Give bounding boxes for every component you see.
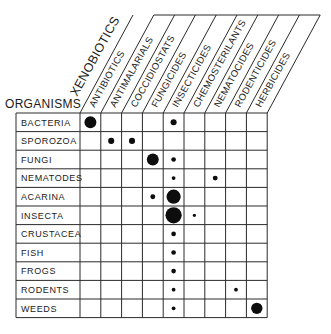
dot-insecta-insecticides bbox=[165, 207, 181, 223]
xenobiotics-organisms-matrix: ANTIBIOTICSANTIMALARIALSCOCCIDIOSTATSFUN… bbox=[0, 0, 331, 334]
dot-frogs-insecticides bbox=[171, 269, 176, 274]
row-label-nematodes: NEMATODES bbox=[21, 173, 83, 183]
dot-fish-insecticides bbox=[171, 250, 176, 255]
row-label-acarina: ACARINA bbox=[21, 192, 65, 202]
row-label-fungi: FUNGI bbox=[21, 155, 52, 165]
dot-acarina-insecticides bbox=[166, 190, 180, 204]
row-labels: BACTERIASPOROZOAFUNGINEMATODESACARINAINS… bbox=[21, 118, 83, 314]
dot-fungi-fungicides bbox=[147, 154, 159, 166]
row-label-sporozoa: SPOROZOA bbox=[21, 136, 77, 146]
dot-fungi-insecticides bbox=[171, 157, 176, 162]
dot-sporozoa-coccidiostats bbox=[129, 138, 135, 144]
dot-bacteria-antibiotics bbox=[84, 116, 96, 128]
dot-rodents-rodenticides bbox=[234, 288, 238, 292]
row-label-insecta: INSECTA bbox=[21, 211, 64, 221]
row-label-rodents: RODENTS bbox=[21, 285, 69, 295]
dot-rodents-insecticides bbox=[172, 288, 176, 292]
row-label-crustacea: CRUSTACEA bbox=[21, 229, 81, 239]
row-label-fish: FISH bbox=[21, 248, 44, 258]
dot-nematodes-nematocides bbox=[213, 176, 218, 181]
row-label-frogs: FROGS bbox=[21, 266, 56, 276]
dot-bacteria-insecticides bbox=[171, 119, 177, 125]
row-label-weeds: WEEDS bbox=[21, 304, 57, 314]
dot-sporozoa-antimalarials bbox=[108, 138, 114, 144]
row-label-bacteria: BACTERIA bbox=[21, 118, 71, 128]
data-dots bbox=[84, 116, 262, 314]
dot-weeds-herbicides bbox=[251, 303, 262, 314]
dot-weeds-insecticides bbox=[172, 306, 176, 310]
organisms-row-header: ORGANISMS bbox=[5, 97, 81, 111]
dot-insecta-chemosterilants bbox=[193, 214, 196, 217]
dot-crustacea-insecticides bbox=[171, 232, 176, 237]
dot-acarina-fungicides bbox=[150, 194, 155, 199]
dot-nematodes-insecticides bbox=[172, 176, 176, 180]
